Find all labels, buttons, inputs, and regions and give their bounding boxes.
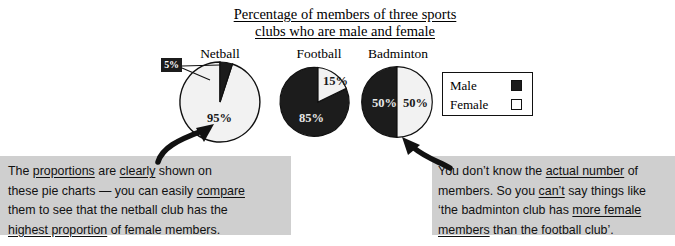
note-right-line-1: You don’t know the actual number of: [438, 162, 669, 182]
pie-label-netball: Netball: [184, 46, 256, 62]
note-right-l1b: actual number: [546, 164, 625, 178]
page-title: Percentage of members of three sports cl…: [185, 6, 505, 40]
legend-label-female: Female: [450, 97, 488, 113]
legend-swatch-female-icon: [511, 99, 522, 110]
note-left-l1b: proportions: [33, 164, 95, 178]
note-right-l3b: more female: [572, 203, 641, 217]
pie-chart-netball: [179, 62, 261, 142]
pie-value-netball-male: 5%: [161, 58, 182, 72]
pie-value-football-male: 85%: [299, 111, 324, 126]
note-left-l2b: compare: [197, 184, 245, 198]
pie-value-badminton-female: 50%: [403, 96, 428, 111]
pie-label-football: Football: [283, 46, 355, 62]
title-line-1: Percentage of members of three sports: [234, 6, 457, 22]
note-left-l4a: highest proportion: [8, 223, 107, 237]
legend-row-male: Male: [450, 76, 526, 95]
pie-value-football-female: 15%: [323, 74, 348, 89]
pie-label-badminton: Badminton: [360, 46, 436, 62]
note-right-l1a: You don’t know the: [438, 164, 546, 178]
note-left-line-1: The proportions are clearly shown on: [8, 162, 283, 182]
figure-canvas: Percentage of members of three sports cl…: [0, 0, 675, 246]
note-right-l4a: members: [438, 223, 490, 237]
note-left-line-3: them to see that the netball club has th…: [8, 201, 283, 221]
title-line-2: clubs who are male and female: [255, 23, 435, 39]
note-right-l2c: say things like: [565, 184, 646, 198]
legend-swatch-male-icon: [511, 80, 522, 91]
legend: Male Female: [442, 72, 533, 116]
note-left-l1c: are: [95, 164, 120, 178]
legend-row-female: Female: [450, 95, 526, 114]
pie-value-badminton-male: 50%: [372, 96, 397, 111]
note-left: The proportions are clearly shown on the…: [0, 156, 291, 235]
note-left-l4b: of female members.: [107, 223, 220, 237]
note-right: You don’t know the actual number of memb…: [432, 156, 675, 235]
note-left-l2a: these pie charts — you can easily: [8, 184, 197, 198]
note-left-line-2: these pie charts — you can easily compar…: [8, 182, 283, 202]
note-right-l2b: can’t: [539, 184, 565, 198]
note-right-l4b: than the football club’.: [490, 223, 614, 237]
note-right-l3a: ‘the badminton club has: [438, 203, 572, 217]
note-right-line-3: ‘the badminton club has more female: [438, 201, 669, 221]
note-left-l1a: The: [8, 164, 33, 178]
pie-value-netball-female: 95%: [207, 111, 232, 126]
note-left-line-4: highest proportion of female members.: [8, 221, 283, 241]
note-right-line-2: members. So you can’t say things like: [438, 182, 669, 202]
note-right-line-4: members than the football club’.: [438, 221, 669, 241]
note-right-l2a: members. So you: [438, 184, 539, 198]
legend-label-male: Male: [450, 78, 477, 94]
note-left-l1d: clearly: [120, 164, 156, 178]
note-left-l1e: shown on: [155, 164, 211, 178]
note-right-l1c: of: [624, 164, 638, 178]
